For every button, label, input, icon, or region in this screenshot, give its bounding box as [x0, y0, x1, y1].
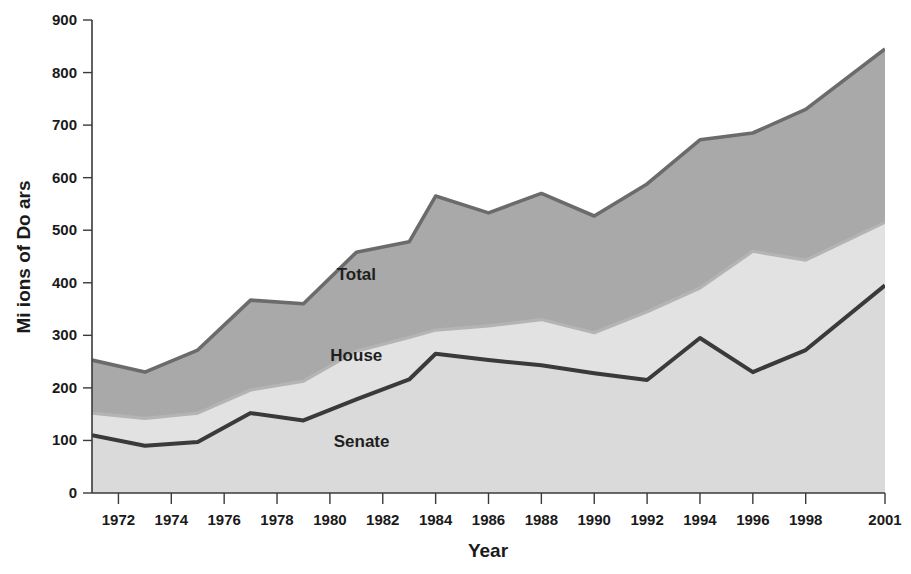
x-axis: 1972197419761978198019821984198619881990…	[92, 493, 902, 528]
chart-figure: 0100200300400500600700800900 19721974197…	[0, 0, 911, 574]
x-tick-label: 1978	[260, 511, 293, 528]
x-axis-title: Year	[468, 540, 509, 561]
plot-areas	[92, 49, 885, 493]
x-tick-label: 1996	[736, 511, 769, 528]
y-tick-label: 0	[69, 484, 77, 501]
y-tick-label: 400	[52, 274, 77, 291]
x-tick-label: 1976	[207, 511, 240, 528]
y-tick-label: 800	[52, 64, 77, 81]
series-label-senate: Senate	[334, 432, 390, 451]
x-tick-label: 2001	[868, 511, 901, 528]
y-tick-label: 900	[52, 11, 77, 28]
x-tick-label: 1990	[578, 511, 611, 528]
x-tick-label: 1998	[789, 511, 822, 528]
x-tick-label: 1974	[155, 511, 189, 528]
x-axis-ticks: 1972197419761978198019821984198619881990…	[102, 493, 902, 528]
y-axis-ticks: 0100200300400500600700800900	[52, 11, 92, 501]
x-tick-label: 1994	[683, 511, 717, 528]
y-tick-label: 600	[52, 169, 77, 186]
x-tick-label: 1992	[630, 511, 663, 528]
y-tick-label: 300	[52, 326, 77, 343]
y-axis: 0100200300400500600700800900	[52, 11, 92, 501]
x-tick-label: 1986	[472, 511, 505, 528]
y-tick-label: 200	[52, 379, 77, 396]
x-tick-label: 1980	[313, 511, 346, 528]
y-tick-label: 500	[52, 221, 77, 238]
x-tick-label: 1982	[366, 511, 399, 528]
area-chart-plot: 0100200300400500600700800900 19721974197…	[0, 0, 911, 574]
y-tick-label: 700	[52, 116, 77, 133]
x-tick-label: 1988	[525, 511, 558, 528]
y-axis-title: Mi ions of Do ars	[13, 180, 34, 333]
series-label-total: Total	[337, 265, 376, 284]
x-tick-label: 1972	[102, 511, 135, 528]
series-label-house: House	[330, 346, 382, 365]
x-tick-label: 1984	[419, 511, 453, 528]
y-tick-label: 100	[52, 431, 77, 448]
